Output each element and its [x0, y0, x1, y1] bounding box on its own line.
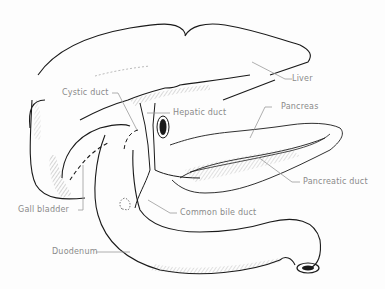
ampulla: [120, 198, 130, 210]
label-liver: Liver: [292, 74, 313, 83]
pancreas-shading: [185, 148, 300, 182]
portal-vessel-cut: [160, 119, 167, 135]
label-hepatic-duct: Hepatic duct: [173, 108, 226, 117]
label-cystic-duct: Cystic duct: [62, 88, 109, 97]
duodenum-lumen-dark: [302, 266, 314, 271]
label-gall-bladder: Gall bladder: [18, 205, 69, 214]
liver-fissure: [95, 66, 150, 76]
label-pancreas: Pancreas: [281, 102, 319, 111]
label-duodenum: Duodenum: [52, 247, 98, 256]
anatomy-illustration: [0, 0, 385, 289]
gall-bladder-outline: [30, 100, 130, 199]
gall-bladder-shading: [50, 155, 73, 198]
liver-left-shading: [34, 100, 41, 140]
duodenum-shading: [150, 258, 280, 273]
anatomy-diagram: Liver Cystic duct Hepatic duct Pancreas …: [0, 0, 385, 289]
label-common-bile-duct: Common bile duct: [180, 208, 256, 217]
label-pancreatic-duct: Pancreatic duct: [303, 177, 368, 186]
liver-outline: [30, 24, 311, 128]
